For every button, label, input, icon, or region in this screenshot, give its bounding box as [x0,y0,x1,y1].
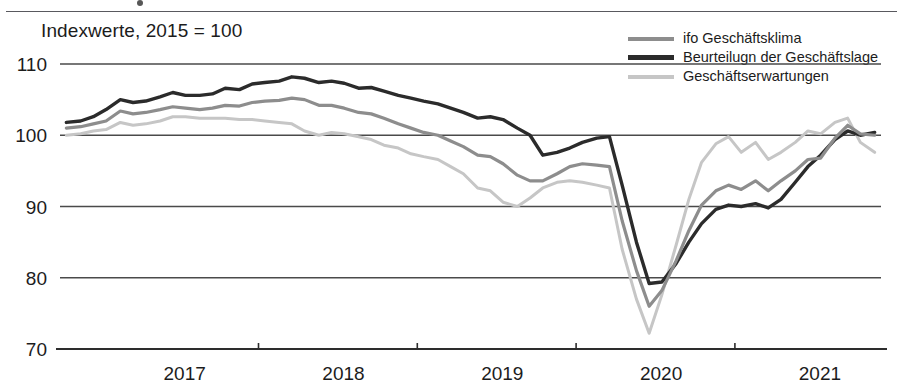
y-tick-label-90: 90 [26,197,47,218]
x-axis [56,343,887,350]
y-tick-label-110: 110 [17,54,47,75]
y-axis-labels: 708090100110 [15,54,47,360]
x-tick-label-2018: 2018 [322,363,364,384]
y-tick-label-100: 100 [15,125,47,146]
chart-plot-area: 708090100110 20172018201920202021 [0,0,903,387]
x-tick-label-2019: 2019 [481,363,523,384]
x-tick-label-2020: 2020 [640,363,682,384]
y-tick-label-70: 70 [26,339,47,360]
series-line-lage [66,98,874,306]
x-tick-label-2021: 2021 [799,363,841,384]
chart-figure: Indexwerte, 2015 = 100 ifo Geschäftsklim… [0,0,903,387]
data-series-group [66,77,874,334]
y-tick-label-80: 80 [26,268,47,289]
x-tick-label-2017: 2017 [164,363,206,384]
x-axis-labels: 20172018201920202021 [164,363,841,384]
